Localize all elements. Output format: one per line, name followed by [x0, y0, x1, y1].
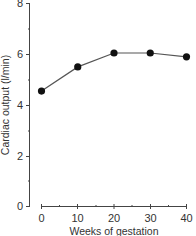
- chart: 8 6 4 2 0 Cardiac output (l/min) 0 10 20…: [0, 0, 196, 236]
- y-tick-label: 4: [17, 99, 23, 111]
- x-tick-label: 30: [144, 212, 156, 224]
- x-tick-label: 10: [71, 212, 83, 224]
- data-point-marker: [183, 53, 190, 60]
- x-axis-label: Weeks of gestation: [69, 225, 158, 236]
- data-point-marker: [110, 49, 117, 56]
- x-tick-label: 20: [108, 212, 120, 224]
- data-series: [38, 49, 190, 94]
- y-tick-label: 2: [17, 150, 23, 162]
- x-tick-label: 40: [180, 212, 192, 224]
- series-line: [42, 53, 187, 91]
- y-tick-label: 8: [17, 0, 23, 9]
- data-point-marker: [74, 63, 81, 70]
- y-tick-labels: 8 6 4 2 0: [17, 0, 23, 212]
- data-point-marker: [38, 87, 45, 94]
- y-tick-label: 6: [17, 48, 23, 60]
- data-point-marker: [147, 49, 154, 56]
- y-tick-label: 0: [17, 200, 23, 212]
- y-axis-label: Cardiac output (l/min): [0, 55, 11, 155]
- x-tick-label: 0: [38, 212, 44, 224]
- x-tick-labels: 0 10 20 30 40: [38, 212, 192, 224]
